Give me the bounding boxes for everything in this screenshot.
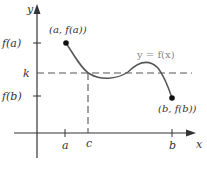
x-tick-label-b: b — [169, 139, 176, 152]
curve-label: y = f(x) — [136, 49, 175, 60]
point-a-fa — [63, 40, 69, 46]
x-tick-label-c: c — [86, 137, 92, 150]
y-axis-label: y — [26, 3, 34, 16]
point-b-fb — [169, 95, 175, 101]
y-tick-label-k: k — [23, 67, 30, 80]
ivt-diagram: y x f(a) k f(b) a c b (a, f(a)) (b, f(b)… — [0, 0, 207, 169]
y-axis-arrow-icon — [34, 4, 41, 14]
point-label-b: (b, f(b)) — [158, 103, 197, 114]
x-tick-label-a: a — [62, 139, 69, 152]
x-axis-label: x — [196, 138, 203, 151]
y-tick-label-fb: f(b) — [1, 90, 22, 103]
y-tick-label-fa: f(a) — [1, 37, 21, 50]
point-label-a: (a, f(a)) — [49, 24, 87, 35]
x-axis-arrow-icon — [186, 130, 196, 137]
